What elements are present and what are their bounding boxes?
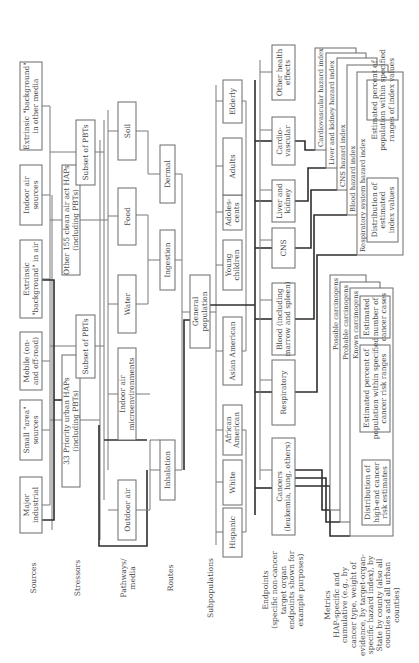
carcinogen-title: Probable carcinogens — [342, 284, 350, 359]
node-label: Blood (includingmarrow and spleen) — [275, 281, 293, 356]
node-label: Asian American — [228, 321, 237, 381]
node-label: Liver andkidney — [275, 183, 293, 219]
node-label: Soil — [123, 123, 132, 138]
node-label: Inhalation — [163, 451, 172, 489]
ingestion-box: Ingestion — [160, 230, 175, 290]
row-labels: SourcesStressorsPathways/mediaRoutesSubp… — [29, 550, 401, 656]
hazard-index-title: CNS hazard index — [339, 124, 347, 187]
node-label: Ingestion — [163, 242, 172, 277]
young-children-box: Youngchildren — [223, 240, 242, 290]
cns-box: CNS — [272, 228, 295, 268]
node-label: Subset of PBTs — [81, 318, 90, 374]
outdoor-air-box: Outdoor air — [118, 480, 136, 540]
cardiovascular-box: Cardio-vascular — [272, 117, 295, 165]
node-label: Hispanic — [228, 516, 237, 549]
dermal-box: Dermal — [160, 145, 175, 203]
node-label: Elderly — [228, 87, 237, 115]
row-label-stressors: Stressors — [73, 560, 82, 596]
row-label-metrics: MetricsHAP-specific andcumulative (e.g.,… — [323, 554, 401, 656]
percent-index-box: Estimated percent ofpopulation within sp… — [367, 49, 398, 151]
hap-risk-framework-diagram: Cardiovascular hazard indexLiver and kid… — [0, 0, 419, 663]
node-label: Adults — [228, 154, 237, 179]
water-box: Water — [118, 275, 136, 333]
adults-box: Adults — [223, 138, 242, 195]
node-label: Indoor airsources — [22, 176, 40, 214]
blood-box: Blood (includingmarrow and spleen) — [272, 281, 295, 356]
major-industrial-box: Majorindustrial — [20, 477, 42, 533]
row-label-endpoints: Endpoints(specific non-cancertarget orga… — [261, 550, 304, 629]
distribution-index-box: Distribution ofestimatedindex values — [367, 178, 398, 242]
row-label-subpopulations: Subpopulations — [206, 558, 215, 618]
carcinogen-title: Known carcinogens — [352, 290, 360, 358]
node-label: Subset of PBTs — [81, 124, 90, 180]
node-label: Estimated percent ofpopulation within sp… — [370, 49, 396, 151]
white-box: White — [223, 460, 242, 505]
node-label: Cardio-vascular — [275, 125, 293, 158]
node-label: White — [228, 471, 237, 493]
row-label-sources: Sources — [29, 562, 38, 593]
row-label-routes: Routes — [166, 565, 175, 592]
row-label-pathways: Pathways/media — [119, 558, 137, 597]
node-label: Food — [123, 207, 132, 226]
cancers-box: Cancers(leukemia, lung, others) — [272, 438, 295, 535]
node-label: 33 Priority urban HAPs(including PBTs) — [62, 377, 80, 465]
percent-cancer-box: Estimated percent ofpopulation within sp… — [360, 337, 390, 439]
diagram-stage: Cardiovascular hazard indexLiver and kid… — [0, 0, 419, 663]
node-label: Dermal — [163, 160, 172, 188]
node-label: Estimatednumber ofcancer cases — [362, 293, 388, 341]
hazard-index-title: Liver and kidney hazard index — [328, 60, 336, 165]
subset-pbts-2-box: Subset of PBTs — [76, 120, 95, 185]
carcinogen-title: Possible carcinogens — [332, 277, 340, 350]
inhalation-box: Inhalation — [160, 440, 175, 500]
other-health-box: Other healtheffects — [272, 45, 295, 100]
food-box: Food — [118, 188, 136, 245]
small-area-box: Small "area"sources — [20, 400, 42, 460]
hazard-index-title: Cardiovascular hazard index — [317, 48, 325, 147]
node-label: Distribution ofhigh-end cancerrisk estim… — [363, 462, 389, 523]
node-label: Outdoor air — [123, 488, 132, 532]
node-label: Water — [123, 292, 132, 315]
hispanic-box: Hispanic — [223, 508, 242, 557]
hazard-index-title: Respiratory system hazard index — [359, 139, 367, 252]
node-label: CNS — [279, 239, 288, 256]
general-population-box: Generalpopulation — [190, 275, 210, 348]
node-label: Mobile (on-and off-road) — [22, 337, 40, 385]
african-american-box: AfricanAmerican — [223, 405, 242, 455]
respiratory-box: Respiratory — [272, 360, 295, 425]
node-label: Respiratory — [279, 370, 288, 415]
number-cancer-box: Estimatednumber ofcancer cases — [360, 293, 390, 341]
mobile-box: Mobile (on-and off-road) — [20, 332, 42, 390]
adolescents-box: Adoles-cents — [223, 195, 242, 230]
subset-pbts-1-box: Subset of PBTs — [76, 315, 95, 378]
extrinsic-air-box: Extrinsic"background" in air — [20, 240, 42, 318]
elderly-box: Elderly — [223, 80, 242, 123]
liver-kidney-box: Liver andkidney — [272, 180, 295, 222]
indoor-air-sources-box: Indoor airsources — [20, 165, 42, 225]
node-label: Generalpopulation — [191, 291, 209, 331]
distribution-cancer-box: Distribution ofhigh-end cancerrisk estim… — [362, 460, 390, 525]
soil-box: Soil — [118, 102, 136, 160]
node-label: AfricanAmerican — [224, 412, 242, 449]
indoor-micro-box: Indoor airmicroenvironments — [118, 348, 136, 440]
node-label: Youngchildren — [224, 249, 242, 280]
extrinsic-other-box: Extrinsic "background"in other media — [20, 62, 42, 150]
asian-american-box: Asian American — [223, 317, 242, 385]
hazard-index-title: Blood hazard index — [349, 145, 357, 212]
